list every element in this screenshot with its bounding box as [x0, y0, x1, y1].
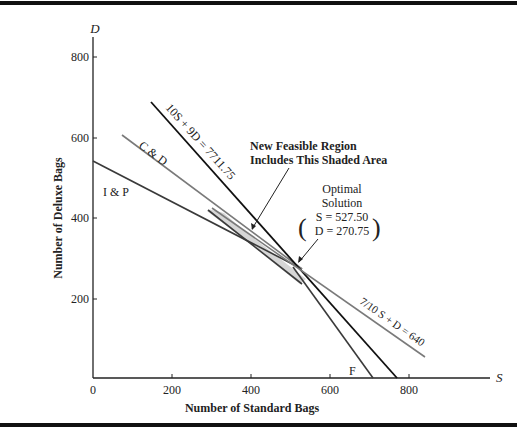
annotation-shaded-line2: Includes This Shaded Area: [250, 153, 387, 167]
annotation-optimal-line1: Optimal: [322, 182, 362, 196]
annotation-optimal-d: D = 270.75: [315, 224, 369, 238]
annotation-arrow-shaded: [252, 168, 289, 229]
x-tick-label: 0: [90, 383, 96, 397]
label-i-and-p: I & P: [103, 185, 129, 199]
label-c-and-d: C & D: [136, 138, 170, 169]
annotation-optimal-s: S = 527.50: [316, 210, 368, 224]
x-axis-label: Number of Standard Bags: [185, 401, 319, 415]
y-tick-label: 600: [71, 131, 89, 145]
annotation-shaded-line1: New Feasible Region: [250, 139, 357, 153]
y-tick-label: 200: [71, 292, 89, 306]
y-axis-label: Number of Deluxe Bags: [51, 157, 65, 279]
x-tick-label: 600: [321, 383, 339, 397]
label-objective: 10S + 9D = 7711.75: [163, 101, 239, 183]
x-axis-symbol: S: [496, 370, 503, 385]
top-rule: [0, 1, 517, 5]
chart: 800 600 400 200 0 200 400 600 800 D S Nu…: [0, 0, 517, 431]
label-f: F: [349, 364, 356, 378]
annotation-optimal-line2: Solution: [322, 196, 363, 210]
line-i-and-p-lower: [208, 210, 302, 284]
arrow-head-icon: [298, 256, 303, 263]
x-tick-label: 200: [163, 383, 181, 397]
y-tick-label: 800: [71, 50, 89, 64]
label-sewing: 7/10 S + D = 640: [358, 295, 428, 349]
line-f: [293, 267, 373, 378]
y-axis-symbol: D: [89, 21, 100, 36]
x-tick-label: 800: [400, 383, 418, 397]
y-tick-label: 400: [71, 211, 89, 225]
bottom-rule: [0, 423, 517, 427]
paren-left: (: [298, 213, 307, 242]
x-tick-label: 400: [242, 383, 260, 397]
paren-right: ): [372, 213, 381, 242]
line-i-and-p: [93, 161, 302, 269]
